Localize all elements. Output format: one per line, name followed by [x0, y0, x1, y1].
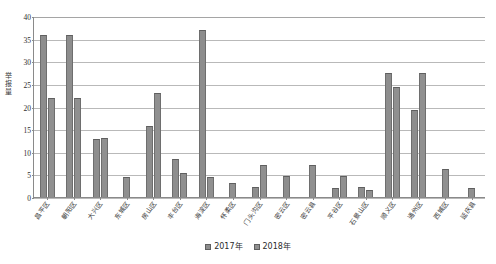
x-tick-label: 平谷区 — [327, 200, 345, 221]
x-tick-label: 大兴区 — [87, 200, 105, 221]
x-label-cell: 海淀区 — [193, 199, 220, 243]
bar — [146, 126, 153, 197]
bar-group — [140, 17, 167, 197]
chart-legend: 2017年2018年 — [0, 243, 496, 251]
legend-item[interactable]: 2017年 — [205, 243, 242, 251]
bar — [66, 35, 73, 197]
y-tick-label: 20 — [5, 104, 31, 112]
x-tick-label: 石景山区 — [349, 200, 371, 227]
bar — [260, 165, 267, 197]
x-label-cell: 朝阳区 — [60, 199, 87, 243]
x-tick-label: 房山区 — [141, 200, 159, 221]
bar — [74, 98, 81, 197]
bar-group — [459, 17, 486, 197]
legend-label: 2018年 — [263, 243, 291, 251]
x-label-cell: 大兴区 — [86, 199, 113, 243]
x-label-cell: 丰台区 — [166, 199, 193, 243]
bar-group — [405, 17, 432, 197]
x-tick-label: 门头沟区 — [243, 200, 265, 227]
bar — [411, 110, 418, 197]
bar — [442, 169, 449, 198]
bar-group — [167, 17, 194, 197]
legend-item[interactable]: 2018年 — [254, 243, 291, 251]
bar-group — [326, 17, 353, 197]
x-label-cell: 顺义区 — [379, 199, 406, 243]
x-label-cell: 密云区 — [272, 199, 299, 243]
x-tick-label: 延庆县 — [460, 200, 478, 221]
legend-label: 2017年 — [214, 243, 242, 251]
bar-group — [114, 17, 141, 197]
y-tick-label: 25 — [5, 81, 31, 89]
bar-group — [246, 17, 273, 197]
x-tick-label: 密云区 — [274, 200, 292, 221]
legend-swatch-icon — [254, 244, 260, 250]
bar — [419, 73, 426, 197]
bar — [48, 98, 55, 197]
bar-group — [220, 17, 247, 197]
bar — [252, 187, 259, 197]
bar-group — [352, 17, 379, 197]
bar — [468, 188, 475, 197]
x-tick-label: 朝阳区 — [61, 200, 79, 221]
x-label-cell: 密云县 — [299, 199, 326, 243]
x-label-cell: 西城区 — [432, 199, 459, 243]
x-label-cell: 东城区 — [113, 199, 140, 243]
bar-group — [273, 17, 300, 197]
y-tick-label: 5 — [5, 172, 31, 180]
y-tick-label: 10 — [5, 149, 31, 157]
x-label-cell: 延庆县 — [459, 199, 486, 243]
bar — [199, 30, 206, 197]
y-tick-label: 30 — [5, 59, 31, 67]
x-tick-label: 西城区 — [433, 200, 451, 221]
bar — [123, 177, 130, 197]
bar — [366, 190, 373, 197]
x-label-cell: 房山区 — [139, 199, 166, 243]
bar — [340, 176, 347, 197]
bar-chart: 举报量 0510152025303540 昌平区朝阳区大兴区东城区房山区丰台区海… — [0, 0, 496, 264]
plot-area: 0510152025303540 — [33, 17, 485, 198]
bar — [101, 138, 108, 197]
x-tick-label: 丰台区 — [167, 200, 185, 221]
x-tick-label: 昌平区 — [34, 200, 52, 221]
x-tick-label: 密云县 — [300, 200, 318, 221]
bar — [393, 87, 400, 197]
bar — [229, 183, 236, 197]
bar-series-container — [34, 17, 485, 197]
bar — [385, 73, 392, 197]
x-label-cell: 门头沟区 — [246, 199, 273, 243]
bar — [207, 177, 214, 197]
bar-group — [193, 17, 220, 197]
bar-group — [432, 17, 459, 197]
bar — [309, 165, 316, 197]
legend-swatch-icon — [205, 244, 211, 250]
bar — [154, 93, 161, 197]
x-axis-labels: 昌平区朝阳区大兴区东城区房山区丰台区海淀区怀柔区门头沟区密云区密云县平谷区石景山… — [33, 199, 485, 243]
x-tick-label: 顺义区 — [380, 200, 398, 221]
bar — [332, 188, 339, 198]
x-tick-label: 怀柔区 — [220, 200, 238, 221]
bar-group — [87, 17, 114, 197]
x-tick-label: 通州区 — [407, 200, 425, 221]
bar — [172, 159, 179, 197]
x-tick-label: 东城区 — [114, 200, 132, 221]
bar-group — [299, 17, 326, 197]
x-tick-label: 海淀区 — [194, 200, 212, 221]
bar-group — [34, 17, 61, 197]
y-tick-label: 40 — [5, 14, 31, 22]
y-tick-label: 15 — [5, 127, 31, 135]
x-label-cell: 石景山区 — [352, 199, 379, 243]
bar — [283, 176, 290, 197]
bar — [93, 139, 100, 197]
bar — [358, 187, 365, 197]
bar-group — [61, 17, 88, 197]
x-label-cell: 昌平区 — [33, 199, 60, 243]
y-tick-label: 0 — [5, 195, 31, 203]
bar — [40, 35, 47, 197]
bar-group — [379, 17, 406, 197]
y-tick-label: 35 — [5, 36, 31, 44]
bar — [180, 173, 187, 197]
x-label-cell: 通州区 — [405, 199, 432, 243]
